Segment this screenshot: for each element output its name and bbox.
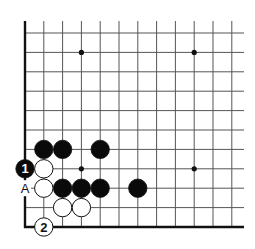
black-stone xyxy=(53,179,71,197)
black-stone xyxy=(129,179,147,197)
white-stone xyxy=(35,179,53,197)
point-labels: A xyxy=(19,180,31,196)
black-stone-icon xyxy=(91,140,109,158)
white-stone-icon xyxy=(53,198,71,216)
star-point-icon xyxy=(192,50,197,55)
move-number-label: 2 xyxy=(40,220,47,235)
black-stone-icon xyxy=(129,179,147,197)
black-stone xyxy=(72,179,90,197)
move-number-label: 1 xyxy=(21,161,28,176)
white-stone xyxy=(53,198,71,216)
black-stone xyxy=(91,179,109,197)
white-stone xyxy=(72,198,90,216)
black-stone-icon xyxy=(91,179,109,197)
point-label-a: A xyxy=(21,181,30,196)
white-stone-icon xyxy=(35,160,53,178)
black-stone xyxy=(53,140,71,158)
star-point-icon xyxy=(79,50,84,55)
white-stone-icon xyxy=(35,179,53,197)
black-stone xyxy=(91,140,109,158)
white-stone xyxy=(35,160,53,178)
star-point-icon xyxy=(192,166,197,171)
white-stone-2: 2 xyxy=(35,218,53,236)
black-stone-icon xyxy=(53,140,71,158)
star-point-icon xyxy=(79,166,84,171)
black-stone xyxy=(35,140,53,158)
black-stone-icon xyxy=(35,140,53,158)
black-stone-1: 1 xyxy=(16,160,34,178)
go-board: A 12 xyxy=(0,0,255,249)
black-stone-icon xyxy=(53,179,71,197)
white-stone-icon xyxy=(72,198,90,216)
black-stone-icon xyxy=(72,179,90,197)
